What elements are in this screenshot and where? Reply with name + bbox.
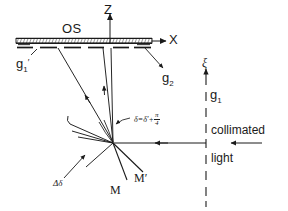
mirror-m-prime-line: [113, 143, 143, 172]
g1-prime-leader-line: [31, 49, 37, 55]
g2-sub: 2: [169, 79, 173, 88]
diffracted-ray-center-arrow: [104, 86, 105, 95]
diffracted-ray-left-arrow: [85, 95, 90, 103]
delta-eq-denominator: 4: [154, 120, 160, 127]
mirror-m-line: [113, 143, 127, 180]
optical-surface-plate-group: [16, 38, 152, 43]
xi-axis-label: ξ: [202, 57, 207, 69]
optical-surface-plate: [16, 39, 152, 44]
x-axis-label: X: [169, 33, 178, 46]
delta-equation-label: δ=δ′+ π 4: [134, 112, 160, 127]
g1-prime-mark: ′: [28, 57, 30, 67]
z-axis-label: Z: [104, 3, 112, 16]
g1-sub: 1: [217, 96, 221, 105]
mirror-normal-fan: [67, 116, 113, 167]
fan-hook: [67, 116, 70, 124]
mirror-m-label: M: [110, 184, 121, 196]
fan-line-down: [86, 143, 113, 167]
delta-eq-fraction: π 4: [154, 112, 160, 127]
delta-increment-label: Δδ: [53, 179, 62, 188]
light-label: light: [211, 152, 233, 164]
collimated-label: collimated: [211, 124, 265, 136]
delta-increment-leader: [64, 155, 85, 178]
g2-leader-line: [145, 48, 163, 68]
optical-schematic-figure: OS Z X g1′ g2 ξ g1 collimated light M′ M…: [0, 0, 288, 211]
mirror-m-prime-label: M′: [134, 172, 147, 184]
g1-prime-label: g1′: [16, 57, 29, 74]
os-label: OS: [62, 22, 82, 35]
delta-equation-leader: [116, 118, 130, 124]
g2-label: g2: [162, 71, 174, 88]
g1-label: g1: [210, 88, 222, 105]
diffracted-rays: [58, 48, 113, 142]
